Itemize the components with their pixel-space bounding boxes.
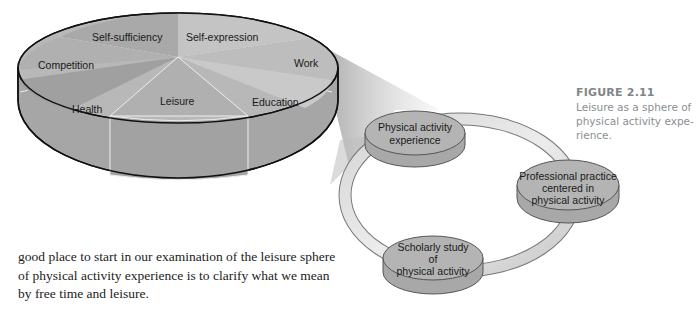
node-label-line: of bbox=[429, 253, 438, 265]
body-paragraph: good place to start in our examination o… bbox=[18, 248, 388, 304]
pie-label-self-sufficiency: Self-sufficiency bbox=[92, 31, 163, 43]
node-scholarly-study: Scholarly study of physical activity bbox=[383, 236, 483, 294]
pie-label-competition: Competition bbox=[38, 59, 94, 71]
caption-line: Leisure as a sphere of bbox=[576, 100, 697, 114]
pie-label-education: Education bbox=[252, 96, 299, 108]
node-label-line: centered in bbox=[542, 182, 594, 194]
node-label-line: physical activity bbox=[532, 194, 606, 206]
caption-line: rience. bbox=[576, 128, 697, 142]
body-line: good place to start in our examination o… bbox=[18, 248, 388, 267]
node-label-line: Physical activity bbox=[378, 121, 453, 133]
node-label-line: experience bbox=[389, 134, 441, 146]
figure-number: FIGURE 2.11 bbox=[576, 86, 697, 100]
caption-line: physical activity expe- bbox=[576, 114, 697, 128]
pie-label-self-expression: Self-expression bbox=[186, 31, 259, 43]
pie-label-work: Work bbox=[294, 57, 319, 69]
pie-label-health: Health bbox=[72, 103, 103, 115]
main-pie: Self-sufficiency Self-expression Work Co… bbox=[18, 13, 338, 180]
node-label-line: Professional practice bbox=[519, 170, 617, 182]
body-line: of physical activity experience is to cl… bbox=[18, 267, 388, 286]
node-label-line: physical activity bbox=[397, 265, 471, 277]
figure-caption: FIGURE 2.11 Leisure as a sphere of physi… bbox=[576, 86, 697, 142]
pie-label-leisure: Leisure bbox=[160, 95, 195, 107]
node-label-line: Scholarly study bbox=[397, 241, 469, 253]
body-line: by free time and leisure. bbox=[18, 285, 388, 304]
node-professional-practice: Professional practice centered in physic… bbox=[517, 160, 619, 223]
node-physical-activity-experience: Physical activity experience bbox=[365, 111, 465, 167]
